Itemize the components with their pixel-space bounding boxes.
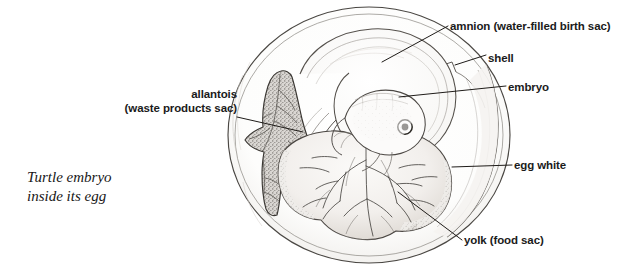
label-yolk: yolk (food sac) bbox=[464, 234, 544, 248]
label-amnion: amnion (water-filled birth sac) bbox=[450, 20, 610, 34]
turtle-egg-cross-section-illustration bbox=[0, 0, 641, 271]
figure-caption-line2: inside its egg bbox=[27, 187, 112, 206]
figure-page: allantois (waste products sac) amnion (w… bbox=[0, 0, 641, 271]
figure-caption: Turtle embryo inside its egg bbox=[27, 168, 112, 206]
label-shell: shell bbox=[488, 52, 514, 66]
label-allantois: allantois (waste products sac) bbox=[96, 88, 237, 115]
label-allantois-line1: allantois bbox=[96, 88, 237, 102]
label-egg-white: egg white bbox=[514, 159, 566, 173]
label-embryo: embryo bbox=[508, 81, 549, 95]
label-allantois-line2: (waste products sac) bbox=[96, 102, 237, 116]
figure-caption-line1: Turtle embryo bbox=[27, 168, 112, 187]
